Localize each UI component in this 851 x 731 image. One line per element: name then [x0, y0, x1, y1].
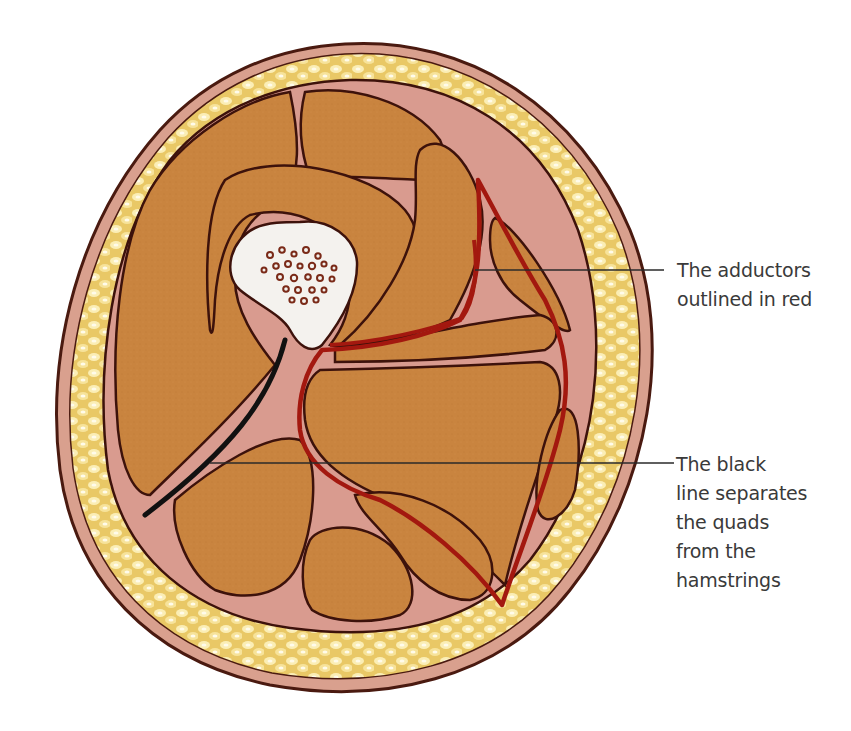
black-line-callout-line-4: from the: [676, 537, 807, 566]
adductors-callout-line-2: outlined in red: [677, 285, 812, 314]
black-line-callout-label: The black line separates the quads from …: [676, 450, 807, 595]
black-line-callout-line-1: The black: [676, 450, 807, 479]
adductors-callout-label: The adductors outlined in red: [677, 256, 812, 314]
adductors-callout-line-1: The adductors: [677, 256, 812, 285]
black-line-callout-line-5: hamstrings: [676, 566, 807, 595]
black-line-callout-line-3: the quads: [676, 508, 807, 537]
thigh-cross-section-diagram: [0, 0, 851, 731]
black-line-callout-line-2: line separates: [676, 479, 807, 508]
